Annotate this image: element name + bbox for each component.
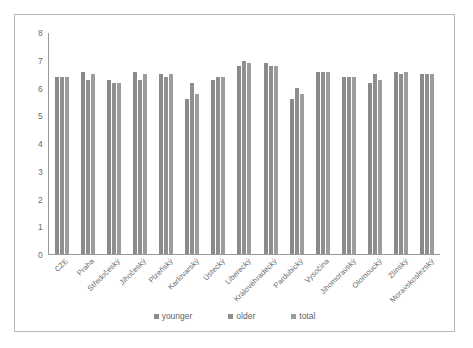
bar-total[interactable] xyxy=(274,66,278,254)
bar-group xyxy=(414,33,440,254)
bar-total[interactable] xyxy=(169,74,173,254)
y-axis-tick-label: 4 xyxy=(38,139,43,149)
bar-older[interactable] xyxy=(242,61,246,254)
y-axis-tick-label: 0 xyxy=(38,250,43,260)
bar-younger[interactable] xyxy=(81,72,85,254)
legend-label: older xyxy=(236,311,255,321)
legend-label: younger xyxy=(162,311,193,321)
y-axis-tick-label: 2 xyxy=(38,195,43,205)
x-axis-tick-label-text: CZE xyxy=(53,257,70,274)
bar-group xyxy=(205,33,231,254)
bar-older[interactable] xyxy=(425,74,429,254)
bar-group xyxy=(284,33,310,254)
bar-older[interactable] xyxy=(138,80,142,254)
bar-younger[interactable] xyxy=(211,80,215,254)
legend-item-younger[interactable]: younger xyxy=(154,311,193,321)
legend-item-older[interactable]: older xyxy=(228,311,255,321)
bar-older[interactable] xyxy=(269,66,273,254)
bar-older[interactable] xyxy=(86,80,90,254)
bar-total[interactable] xyxy=(221,77,225,254)
y-axis-tick-label: 3 xyxy=(38,167,43,177)
legend-item-total[interactable]: total xyxy=(291,311,315,321)
y-axis-tick-label: 8 xyxy=(38,28,43,38)
bar-younger[interactable] xyxy=(159,74,163,254)
bar-group xyxy=(362,33,388,254)
bar-older[interactable] xyxy=(295,88,299,254)
bar-group xyxy=(388,33,414,254)
y-axis-tick-label: 7 xyxy=(38,56,43,66)
bar-total[interactable] xyxy=(65,77,69,254)
legend-swatch-icon xyxy=(154,314,159,319)
bar-total[interactable] xyxy=(352,77,356,254)
chart-container: 876543210 CZEPrahaStředočeskýJihočeskýPl… xyxy=(14,14,455,332)
bar-group xyxy=(179,33,205,254)
bar-younger[interactable] xyxy=(420,74,424,254)
x-axis: CZEPrahaStředočeskýJihočeskýPlzeňskýKarl… xyxy=(48,255,440,315)
legend-swatch-icon xyxy=(291,314,296,319)
bar-group xyxy=(258,33,284,254)
y-axis: 876543210 xyxy=(15,15,48,256)
bar-younger[interactable] xyxy=(264,63,268,254)
y-axis-tick-label: 1 xyxy=(38,222,43,232)
bar-total[interactable] xyxy=(91,74,95,254)
bar-younger[interactable] xyxy=(368,83,372,254)
bar-total[interactable] xyxy=(117,83,121,254)
bars-layer xyxy=(49,33,440,254)
bar-total[interactable] xyxy=(195,94,199,254)
x-axis-tick-label-text: Zlínský xyxy=(386,257,410,281)
bar-total[interactable] xyxy=(247,63,251,254)
bar-older[interactable] xyxy=(60,77,64,254)
bar-younger[interactable] xyxy=(342,77,346,254)
bar-group xyxy=(153,33,179,254)
plot-area xyxy=(48,33,440,255)
bar-younger[interactable] xyxy=(290,99,294,254)
x-axis-tick-label-text: Praha xyxy=(75,257,96,278)
bar-older[interactable] xyxy=(164,77,168,254)
legend-label: total xyxy=(299,311,315,321)
bar-group xyxy=(336,33,362,254)
legend-swatch-icon xyxy=(228,314,233,319)
bar-total[interactable] xyxy=(404,72,408,254)
bar-younger[interactable] xyxy=(55,77,59,254)
bar-total[interactable] xyxy=(326,72,330,254)
bar-younger[interactable] xyxy=(107,80,111,254)
bar-older[interactable] xyxy=(190,83,194,254)
bar-group xyxy=(231,33,257,254)
bar-older[interactable] xyxy=(347,77,351,254)
bar-older[interactable] xyxy=(216,77,220,254)
bar-group xyxy=(49,33,75,254)
bar-older[interactable] xyxy=(321,72,325,254)
bar-group xyxy=(127,33,153,254)
bar-younger[interactable] xyxy=(394,72,398,254)
bar-group xyxy=(101,33,127,254)
bar-total[interactable] xyxy=(430,74,434,254)
bar-younger[interactable] xyxy=(237,66,241,254)
bar-older[interactable] xyxy=(112,83,116,254)
y-axis-tick-label: 6 xyxy=(38,84,43,94)
y-axis-tick-label: 5 xyxy=(38,111,43,121)
bar-older[interactable] xyxy=(373,74,377,254)
bar-group xyxy=(75,33,101,254)
bar-older[interactable] xyxy=(399,74,403,254)
bar-younger[interactable] xyxy=(185,99,189,254)
chart-legend: youngeroldertotal xyxy=(15,311,454,321)
bar-younger[interactable] xyxy=(133,72,137,254)
